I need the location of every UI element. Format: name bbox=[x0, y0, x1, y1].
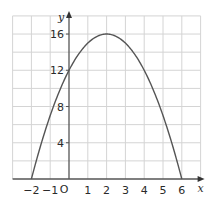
y-tick-label: 4 bbox=[57, 137, 64, 150]
y-tick-label: 16 bbox=[50, 28, 64, 41]
x-tick-label: 5 bbox=[160, 184, 167, 197]
x-axis-label: x bbox=[198, 182, 205, 195]
x-tick-label: −1 bbox=[42, 184, 58, 197]
x-tick-label: 4 bbox=[141, 184, 148, 197]
x-tick-label: 6 bbox=[178, 184, 185, 197]
x-tick-label: −2 bbox=[23, 184, 39, 197]
y-axis-label: y bbox=[57, 11, 65, 24]
y-axis-arrow-icon bbox=[66, 11, 72, 18]
origin-label: O bbox=[60, 183, 69, 196]
y-tick-label: 8 bbox=[57, 101, 64, 114]
parabola-chart: −2−1123456O481216xy bbox=[0, 0, 212, 216]
x-tick-label: 2 bbox=[103, 184, 110, 197]
x-tick-label: 3 bbox=[122, 184, 129, 197]
x-tick-label: 1 bbox=[84, 184, 91, 197]
y-tick-label: 12 bbox=[50, 64, 64, 77]
grid bbox=[13, 16, 201, 179]
